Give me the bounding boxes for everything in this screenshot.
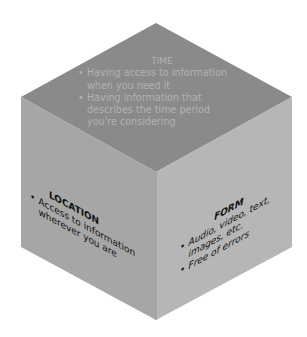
time-bullet-line: Having information that	[87, 92, 202, 103]
time-title: TIME	[86, 55, 238, 67]
time-bullet-list: Having access to information when you ne…	[78, 67, 238, 128]
time-face-text: TIME Having access to information when y…	[78, 55, 238, 129]
time-bullet-item: Having information that describes the ti…	[78, 92, 238, 129]
time-bullet-line: you're considering	[87, 116, 176, 127]
time-bullet-line: Having access to information	[87, 67, 227, 78]
time-bullet-line: describes the time period	[87, 104, 210, 115]
time-bullet-line: when you need it	[87, 80, 170, 91]
time-bullet-item: Having access to information when you ne…	[78, 67, 238, 92]
cube-diagram	[0, 0, 307, 337]
